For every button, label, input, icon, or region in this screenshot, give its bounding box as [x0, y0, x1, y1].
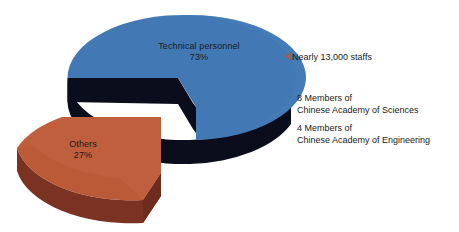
callout-arrow-icon — [285, 52, 292, 61]
slice-label-technical-personnel: Technical personnel 73% — [139, 41, 259, 63]
slice-label-technical-name: Technical personnel — [158, 41, 239, 51]
annotation-total-staff: Nearly 13,000 staffs — [292, 52, 372, 64]
annotation-academy-of-sciences-line2: Chinese Academy of Sciences — [297, 105, 419, 117]
slice-label-others-percent: 27% — [48, 150, 118, 161]
annotation-academy-of-engineering-line2: Chinese Academy of Engineering — [297, 135, 430, 147]
annotation-total-staff-line1: Nearly 13,000 staffs — [292, 52, 372, 64]
slice-label-others-name: Others — [69, 139, 97, 149]
slice-label-technical-percent: 73% — [139, 52, 259, 63]
pie-chart-graphic — [0, 0, 459, 232]
pie-chart-figure: Technical personnel 73% Others 27% Nearl… — [0, 0, 459, 232]
annotation-academy-of-engineering: 4 Members of Chinese Academy of Engineer… — [297, 123, 430, 146]
annotation-academy-of-sciences-line1: 8 Members of — [297, 93, 419, 105]
annotation-academy-of-engineering-line1: 4 Members of — [297, 123, 430, 135]
annotation-academy-of-sciences: 8 Members of Chinese Academy of Sciences — [297, 93, 419, 116]
slice-label-others: Others 27% — [48, 139, 118, 161]
